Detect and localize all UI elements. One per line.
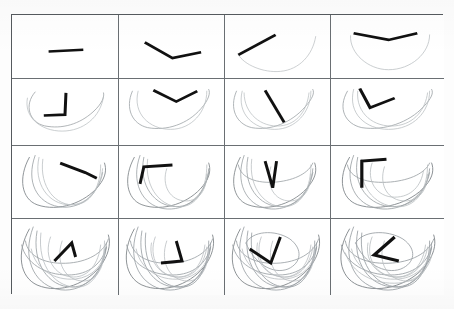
arm-linkage-10 (140, 165, 172, 184)
panel-canvas-13 (12, 219, 118, 295)
arm-linkage-11 (265, 161, 276, 188)
trace-orbit-3 (358, 91, 428, 126)
trace-orbit-3 (247, 231, 317, 287)
panel-cell-12 (331, 146, 444, 219)
arm-linkage-5 (44, 93, 66, 116)
panel-cell-16 (331, 219, 444, 295)
panel-cell-13 (12, 219, 119, 295)
panel-canvas-9 (12, 146, 118, 218)
panel-canvas-7 (225, 79, 330, 145)
trace-orbit-3 (38, 157, 103, 204)
arm-linkage-16 (374, 237, 399, 261)
panel-cell-4 (331, 15, 444, 79)
panel-cell-8 (331, 79, 444, 146)
panel-cell-7 (225, 79, 331, 146)
trace-orbit-1 (343, 89, 433, 128)
arm-linkage-4 (354, 33, 418, 40)
trace-orbit-3 (36, 231, 107, 287)
panel-cell-15 (225, 219, 331, 295)
panel-canvas-6 (119, 79, 224, 145)
panel-canvas-5 (12, 79, 118, 145)
arm-linkage-3 (238, 35, 275, 55)
panel-cell-14 (119, 219, 225, 295)
panel-canvas-8 (331, 79, 444, 145)
arm-linkage-15 (250, 237, 281, 263)
trace-orbit-7 (356, 233, 413, 271)
arm-linkage-6 (153, 90, 197, 101)
panel-canvas-1 (12, 15, 118, 78)
panel-cell-2 (119, 15, 225, 79)
arm-linkage-13 (54, 243, 75, 261)
panel-cell-6 (119, 79, 225, 146)
panel-canvas-3 (225, 15, 330, 78)
trace-orbit-7 (370, 163, 423, 197)
panel-canvas-12 (331, 146, 444, 218)
arm-linkage-8 (360, 89, 395, 108)
panel-cell-10 (119, 146, 225, 219)
panel-canvas-2 (119, 15, 224, 78)
trace-orbit-2 (137, 91, 207, 129)
panel-cell-9 (12, 146, 119, 219)
trace-orbit-4 (347, 163, 429, 182)
trace-orbit-1 (238, 37, 315, 72)
panel-cell-5 (12, 79, 119, 146)
panel-canvas-16 (331, 219, 444, 295)
figure-root (0, 0, 454, 309)
panel-cell-11 (225, 146, 331, 219)
trace-orbit-1 (233, 89, 313, 128)
panel-canvas-11 (225, 146, 330, 218)
trace-orbit-3 (141, 231, 211, 287)
panel-cell-1 (12, 15, 119, 79)
arm-linkage-9 (60, 163, 97, 178)
trace-orbit-3 (143, 157, 209, 206)
panel-canvas-15 (225, 219, 330, 295)
panel-canvas-4 (331, 15, 444, 78)
arm-linkage-2 (145, 42, 201, 58)
trace-orbit-5 (165, 169, 207, 201)
arm-linkage-1 (49, 50, 84, 52)
panel-cell-3 (225, 15, 331, 79)
panel-canvas-14 (119, 219, 224, 295)
panel-canvas-10 (119, 146, 224, 218)
trace-orbit-1 (129, 89, 209, 128)
arm-linkage-7 (265, 90, 284, 122)
panel-grid (11, 14, 443, 294)
